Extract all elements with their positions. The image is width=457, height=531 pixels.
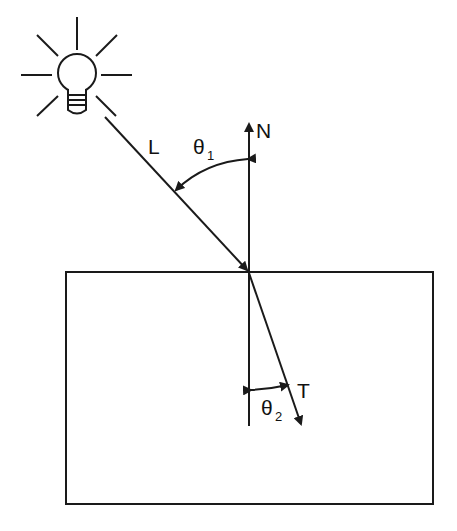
label-n: N [256, 119, 271, 142]
label-theta2: θ [261, 396, 273, 419]
refraction-diagram: L N T θ 1 θ 2 [0, 0, 457, 531]
theta2-arc [251, 385, 288, 390]
transmitted-vector [249, 273, 301, 424]
label-theta1-sub: 1 [207, 148, 214, 163]
label-t: T [297, 379, 310, 402]
label-theta1: θ [193, 135, 205, 158]
light-bulb-icon [21, 17, 132, 116]
light-vector [105, 117, 247, 270]
label-theta2-sub: 2 [275, 409, 282, 424]
label-l: L [148, 135, 160, 158]
theta1-arc [176, 159, 248, 190]
